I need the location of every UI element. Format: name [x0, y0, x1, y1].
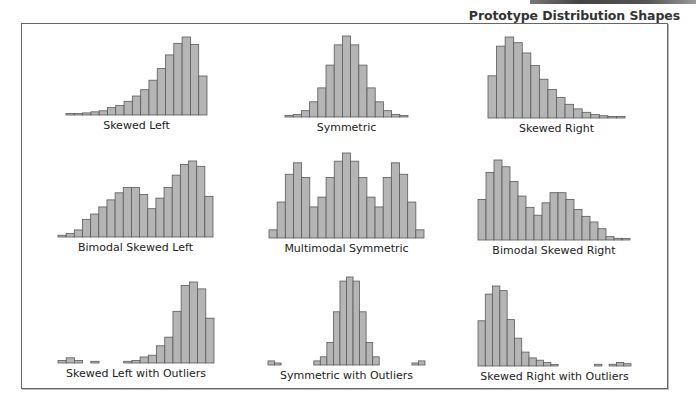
- histogram-bar: [418, 361, 425, 365]
- histogram-bar: [165, 337, 173, 363]
- histogram-bar: [132, 360, 140, 363]
- histogram-bar: [360, 312, 367, 365]
- histogram-bar: [74, 113, 82, 115]
- histogram-symmetric-outliers: Symmetric with Outliers: [268, 277, 425, 382]
- histogram-bar: [66, 233, 74, 237]
- histogram-bar: [566, 199, 574, 240]
- histogram-bar: [478, 321, 485, 366]
- histogram-bar: [400, 174, 408, 238]
- histogram-bar: [342, 36, 350, 117]
- histogram-bar: [91, 112, 99, 115]
- histogram-bar: [148, 209, 156, 237]
- histogram-bar: [505, 37, 514, 118]
- histogram-bar: [107, 108, 115, 115]
- histogram-bar: [318, 197, 326, 238]
- histogram-label: Skewed Right: [519, 122, 595, 135]
- histogram-bar: [199, 76, 207, 115]
- histogram-bar: [574, 109, 583, 118]
- histogram-label: Multimodal Symmetric: [284, 242, 408, 255]
- histogram-bar: [606, 237, 614, 240]
- histogram-label: Skewed Left with Outliers: [66, 367, 206, 380]
- histogram-bar: [189, 161, 197, 237]
- histogram-bar: [310, 102, 318, 117]
- histogram-bar: [574, 210, 582, 240]
- histogram-bar: [582, 216, 590, 240]
- histogram-bar: [539, 79, 548, 118]
- histogram-bar: [416, 230, 424, 238]
- histogram-bar: [269, 230, 277, 238]
- histogram-bar: [58, 360, 66, 363]
- histogram-bar: [124, 101, 132, 115]
- histogram-bar: [99, 207, 107, 237]
- histogram-bimodal-skewed-left: Bimodal Skewed Left: [58, 161, 213, 254]
- histogram-bar: [314, 361, 321, 365]
- histogram-bar: [599, 116, 608, 118]
- histogram-bar: [123, 188, 131, 237]
- histogram-bar: [557, 97, 566, 118]
- histogram-bar: [182, 37, 190, 115]
- histogram-bar: [510, 181, 518, 240]
- histogram-bar: [353, 281, 360, 365]
- histogram-bar: [485, 294, 492, 366]
- histogram-bar: [522, 352, 529, 366]
- histogram-bar: [157, 69, 165, 115]
- histogram-bar: [74, 230, 82, 237]
- histogram-bar: [590, 222, 598, 240]
- histogram-bar: [293, 114, 301, 117]
- histogram-bar: [333, 312, 340, 365]
- histogram-bar: [318, 88, 326, 117]
- histogram-bar: [140, 195, 148, 237]
- histogram-bar: [268, 361, 275, 365]
- histogram-bar: [132, 96, 140, 115]
- histogram-bar: [172, 175, 180, 237]
- histogram-bar: [66, 358, 74, 363]
- histogram-bar: [531, 66, 540, 118]
- histogram-label: Symmetric with Outliers: [280, 369, 413, 382]
- histogram-bar: [310, 207, 318, 238]
- histogram-bar: [334, 45, 342, 117]
- histogram-bar: [367, 197, 375, 238]
- histogram-bar: [285, 116, 293, 118]
- histogram-grid: Skewed Left Symmetric Skewed Right Bimod…: [0, 0, 696, 409]
- histogram-bar: [116, 106, 124, 115]
- histogram-bar: [206, 318, 214, 363]
- histogram-bar: [141, 90, 149, 115]
- histogram-bar: [507, 320, 514, 366]
- histogram-bar: [198, 289, 206, 363]
- histogram-bar: [173, 311, 181, 363]
- histogram-bar: [534, 215, 542, 240]
- histogram-bar: [58, 235, 66, 237]
- histogram-bar: [486, 172, 494, 240]
- histogram-bar: [408, 202, 416, 238]
- histogram-bar: [400, 116, 408, 118]
- histogram-bar: [608, 117, 617, 119]
- histogram-bar: [542, 203, 550, 240]
- histogram-bar: [83, 113, 91, 115]
- histogram-bar: [522, 53, 531, 118]
- histogram-bar: [366, 342, 373, 365]
- histogram-bar: [526, 207, 534, 240]
- histogram-bar: [347, 277, 354, 365]
- histogram-bar: [500, 291, 507, 366]
- histogram-bar: [478, 199, 486, 240]
- histogram-skewed-left: Skewed Left: [66, 37, 207, 132]
- histogram-bar: [392, 114, 400, 117]
- histogram-bar: [66, 114, 74, 116]
- histogram-bar: [342, 153, 350, 238]
- histogram-bar: [340, 281, 347, 365]
- histogram-bar: [148, 355, 156, 363]
- histogram-bar: [591, 115, 600, 118]
- histogram-bar: [277, 202, 285, 238]
- histogram-bar: [518, 196, 526, 240]
- histogram-bar: [91, 214, 99, 237]
- histogram-symmetric: Symmetric: [285, 36, 408, 134]
- histogram-bar: [502, 167, 510, 240]
- histogram-bar: [74, 360, 82, 363]
- histogram-bar: [616, 117, 625, 119]
- histogram-bar: [548, 89, 557, 118]
- histogram-bar: [180, 165, 188, 237]
- histogram-bar: [131, 188, 139, 237]
- histogram-bar: [82, 219, 90, 237]
- histogram-bar: [293, 163, 301, 238]
- histogram-bar: [622, 239, 630, 241]
